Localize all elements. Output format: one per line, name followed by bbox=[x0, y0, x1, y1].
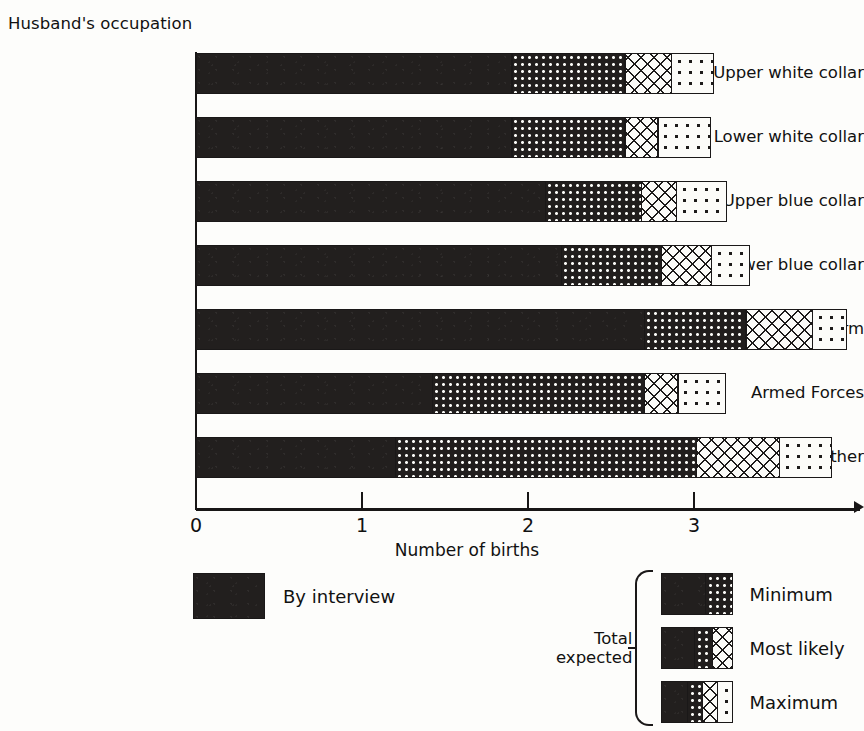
legend-row-minimum: Minimum bbox=[661, 573, 844, 615]
swatch-part-dense bbox=[706, 574, 733, 614]
bar-segment-divider bbox=[676, 181, 677, 222]
bar-row bbox=[196, 245, 750, 286]
bar-segment-divider bbox=[657, 117, 658, 158]
legend-label-minimum: Minimum bbox=[749, 584, 832, 605]
bar-segment-by-interview bbox=[196, 437, 395, 478]
bar-segment-minimum bbox=[561, 245, 661, 286]
bar-segment-most-likely bbox=[696, 437, 779, 478]
legend-rows: Minimum Most likely Maximum bbox=[661, 573, 844, 723]
bar-segment-by-interview bbox=[196, 245, 561, 286]
bar-segment-most-likely bbox=[624, 53, 670, 94]
swatch-part-cross bbox=[713, 628, 733, 668]
bar-segment-by-interview bbox=[196, 117, 511, 158]
swatch-part-cross bbox=[703, 682, 718, 722]
legend-label-maximum: Maximum bbox=[749, 692, 838, 713]
bar-segment-maximum bbox=[711, 245, 751, 286]
bar-segment-divider bbox=[641, 181, 642, 222]
bar-row bbox=[196, 53, 714, 94]
bar-segment-maximum bbox=[812, 309, 847, 350]
swatch-part-solid bbox=[662, 628, 694, 668]
bar-segment-most-likely bbox=[661, 245, 711, 286]
legend-row-most-likely: Most likely bbox=[661, 627, 844, 669]
bar-segment-most-likely bbox=[644, 373, 677, 414]
bar-segment-maximum bbox=[657, 117, 710, 158]
bar-segment-divider bbox=[624, 117, 625, 158]
bar-segment-maximum bbox=[677, 373, 725, 414]
bar-segment-minimum bbox=[545, 181, 641, 222]
x-axis-tick bbox=[361, 492, 363, 509]
bar-row bbox=[196, 309, 847, 350]
x-axis-tick-label: 1 bbox=[356, 514, 368, 536]
bar-row bbox=[196, 373, 726, 414]
legend-total-expected: Total expected Minimum Most likely bbox=[556, 570, 845, 726]
legend-total-line1: Total bbox=[556, 629, 632, 648]
swatch-part-dots bbox=[718, 682, 733, 722]
bar-segment-by-interview bbox=[196, 309, 644, 350]
bar-segment-minimum bbox=[395, 437, 695, 478]
bar-row bbox=[196, 181, 727, 222]
x-axis-tick-label: 3 bbox=[688, 514, 700, 536]
x-axis-title: Number of births bbox=[0, 540, 864, 560]
bar-segment-divider bbox=[545, 181, 546, 222]
bar-segment-maximum bbox=[676, 181, 727, 222]
x-axis-tick bbox=[527, 492, 529, 509]
bar-segment-divider bbox=[812, 309, 813, 350]
bar-segment-maximum bbox=[779, 437, 832, 478]
bar-segment-most-likely bbox=[745, 309, 811, 350]
bar-segment-divider bbox=[671, 53, 672, 94]
legend-total-line2: expected bbox=[556, 648, 632, 667]
bar-segment-divider bbox=[661, 245, 662, 286]
bar-segment-divider bbox=[779, 437, 780, 478]
bar-segment-divider bbox=[432, 373, 433, 414]
swatch-part-solid bbox=[662, 574, 705, 614]
swatch-part-solid bbox=[662, 682, 687, 722]
bar-row bbox=[196, 117, 711, 158]
bar-segment-divider bbox=[677, 373, 678, 414]
bar-segment-by-interview bbox=[196, 373, 432, 414]
bar-segment-divider bbox=[745, 309, 746, 350]
x-axis-tick-label: 2 bbox=[522, 514, 534, 536]
legend-row-maximum: Maximum bbox=[661, 681, 844, 723]
x-axis-tick bbox=[195, 492, 197, 509]
legend-label-most-likely: Most likely bbox=[749, 638, 844, 659]
legend-swatch-minimum bbox=[661, 573, 733, 615]
bar-segment-by-interview bbox=[196, 181, 545, 222]
swatch-part-dense bbox=[695, 628, 713, 668]
legend-swatch-by-interview bbox=[193, 573, 265, 619]
bar-segment-divider bbox=[511, 53, 512, 94]
x-axis-tick bbox=[693, 492, 695, 509]
bar-row bbox=[196, 437, 832, 478]
legend-swatch-most-likely bbox=[661, 627, 733, 669]
x-axis-tick-label: 0 bbox=[190, 514, 202, 536]
bar-segment-maximum bbox=[671, 53, 714, 94]
swatch-part-dense bbox=[688, 682, 703, 722]
bar-segment-by-interview bbox=[196, 53, 511, 94]
bar-segment-divider bbox=[696, 437, 697, 478]
bar-segment-divider bbox=[511, 117, 512, 158]
legend-total-expected-text: Total expected bbox=[556, 629, 632, 668]
x-axis-arrow-icon bbox=[854, 501, 864, 513]
bar-segment-minimum bbox=[644, 309, 745, 350]
bar-segment-most-likely bbox=[641, 181, 676, 222]
legend-swatch-maximum bbox=[661, 681, 733, 723]
legend-label-by-interview: By interview bbox=[283, 586, 395, 607]
bar-segment-divider bbox=[624, 53, 625, 94]
bar-segment-minimum bbox=[432, 373, 644, 414]
curly-brace-icon bbox=[635, 570, 653, 726]
bar-segment-most-likely bbox=[624, 117, 657, 158]
bar-segment-divider bbox=[395, 437, 396, 478]
bar-segment-divider bbox=[561, 245, 562, 286]
bar-segment-minimum bbox=[511, 117, 624, 158]
legend-by-interview: By interview bbox=[193, 573, 395, 619]
bar-segment-minimum bbox=[511, 53, 624, 94]
bar-segment-divider bbox=[644, 373, 645, 414]
bar-segment-divider bbox=[711, 245, 712, 286]
bar-segment-divider bbox=[644, 309, 645, 350]
